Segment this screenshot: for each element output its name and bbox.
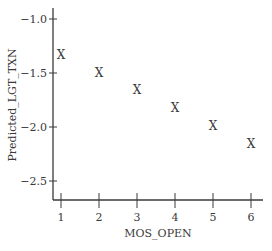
y-tick-label: −2.5 (20, 175, 47, 188)
data-point-marker: X (247, 137, 256, 151)
x-tick-label: 1 (58, 211, 65, 224)
data-point-marker: X (209, 119, 218, 133)
y-axis-title: Predicted_LGT_TXN (6, 48, 19, 161)
x-tick-label: 6 (248, 211, 255, 224)
y-tick-label: −2.0 (20, 121, 47, 134)
data-point-marker: X (133, 83, 142, 97)
x-axis-ticks: 123456 (58, 193, 255, 224)
data-point-marker: X (57, 48, 66, 62)
y-axis-ticks: −1.0−1.5−2.0−2.5 (20, 13, 57, 188)
scatter-chart: −1.0−1.5−2.0−2.5 123456 XXXXXX MOS_OPEN … (0, 0, 272, 251)
x-tick-label: 4 (172, 211, 179, 224)
x-axis-title: MOS_OPEN (124, 227, 192, 240)
axes (53, 8, 263, 200)
x-tick-label: 5 (210, 211, 217, 224)
y-tick-label: −1.0 (20, 13, 47, 26)
data-point-marker: X (95, 66, 104, 80)
data-point-marker: X (171, 101, 180, 115)
chart-canvas: −1.0−1.5−2.0−2.5 123456 XXXXXX MOS_OPEN … (0, 0, 272, 251)
x-tick-label: 3 (134, 211, 141, 224)
y-tick-label: −1.5 (20, 67, 47, 80)
data-points: XXXXXX (57, 48, 256, 152)
x-tick-label: 2 (96, 211, 103, 224)
